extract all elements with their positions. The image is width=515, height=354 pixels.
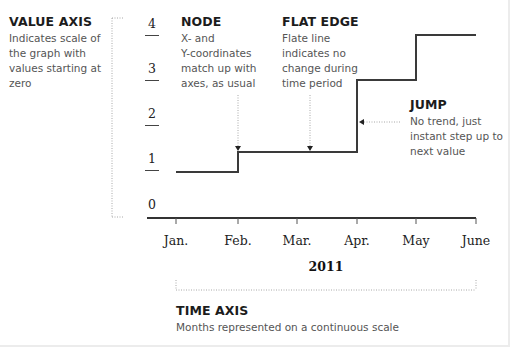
arrow-left-icon [359, 119, 364, 125]
x-tick-label: Mar. [267, 233, 327, 248]
y-tick-label: 1 [144, 151, 160, 166]
desc-line: indicates no [282, 46, 392, 61]
desc-line: No trend, just [410, 114, 515, 129]
y-tick-label: 4 [144, 16, 160, 31]
desc-line: the graph with [9, 46, 114, 61]
desc-line: change during [282, 61, 392, 76]
time-axis-title: TIME AXIS [176, 303, 496, 318]
flat-edge-annotation: FLAT EDGE Flate line indicates no change… [282, 14, 392, 91]
desc-line: Indicates scale of [9, 31, 114, 46]
jump-pointer [359, 119, 400, 125]
node-desc: X- and Y-coordinates match up with axes,… [181, 31, 291, 91]
time-axis-annotation: TIME AXIS Months represented on a contin… [176, 303, 496, 335]
time-axis-desc: Months represented on a continuous scale [176, 320, 496, 335]
desc-line: time period [282, 76, 392, 91]
desc-line: next value [410, 144, 515, 159]
x-tick-label: Jan. [146, 233, 206, 248]
flat-edge-pointer [307, 95, 313, 151]
x-tick-label: May [386, 233, 446, 248]
diagram-card: VALUE AXIS Indicates scale of the graph … [0, 0, 510, 347]
x-tick-label: June [446, 233, 506, 248]
jump-annotation: JUMP No trend, just instant step up to n… [410, 97, 515, 159]
x-tick-label: Feb. [208, 233, 268, 248]
jump-title: JUMP [410, 97, 515, 112]
value-axis-annotation: VALUE AXIS Indicates scale of the graph … [9, 14, 114, 91]
y-tick-mark [145, 80, 159, 81]
node-annotation: NODE X- and Y-coordinates match up with … [181, 14, 291, 91]
y-tick-label: 2 [144, 106, 160, 121]
y-tick-mark [145, 170, 159, 171]
desc-line: axes, as usual [181, 76, 291, 91]
desc-line: Flate line [282, 31, 392, 46]
desc-line: match up with [181, 61, 291, 76]
jump-desc: No trend, just instant step up to next v… [410, 114, 515, 159]
desc-line: Y-coordinates [181, 46, 291, 61]
value-axis-desc: Indicates scale of the graph with values… [9, 31, 114, 91]
value-axis-title: VALUE AXIS [9, 14, 114, 29]
desc-line: zero [9, 76, 114, 91]
arrow-down-icon [235, 146, 241, 151]
desc-line: X- and [181, 31, 291, 46]
y-tick-mark [145, 35, 159, 36]
desc-line: values starting at [9, 61, 114, 76]
desc-line: instant step up to [410, 129, 515, 144]
y-tick-mark [145, 125, 159, 126]
y-tick-label: 3 [144, 61, 160, 76]
x-axis-title-year: 2011 [286, 259, 366, 274]
node-pointer [235, 95, 241, 151]
node-title: NODE [181, 14, 291, 29]
time-axis-bracket [176, 280, 476, 290]
desc-line: Months represented on a continuous scale [176, 320, 496, 335]
x-tick-label: Apr. [327, 233, 387, 248]
flat-edge-desc: Flate line indicates no change during ti… [282, 31, 392, 91]
flat-edge-title: FLAT EDGE [282, 14, 392, 29]
y-tick-label: 0 [144, 197, 160, 212]
arrow-down-icon [307, 146, 313, 151]
